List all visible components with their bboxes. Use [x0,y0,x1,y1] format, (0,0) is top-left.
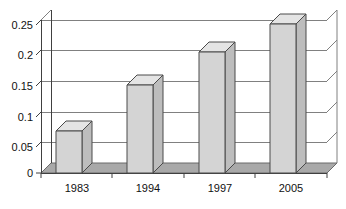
bar-1994 [127,75,163,173]
bar-1997-front [199,52,225,173]
bar-2005-front [270,24,296,173]
chart-canvas: 0.25 0.2 0.15 0.1 0.05 0 1983 1994 1997 … [0,0,346,209]
bar-2005 [270,14,306,173]
y-tick-025 [36,20,41,25]
y-tick-005 [36,142,41,147]
x-tick-marks [41,173,327,178]
x-tick-label-1997: 1997 [208,182,232,194]
y-axis-tick-labels: 0.25 0.2 0.15 0.1 0.05 0 [12,19,33,179]
x-axis-tick-labels: 1983 1994 1997 2005 [65,182,303,194]
y-tick-010 [36,112,41,117]
y-tick-label-010: 0.1 [18,111,33,123]
x-tick-label-1983: 1983 [65,182,89,194]
y-tick-020 [36,50,41,55]
x-tick-label-1994: 1994 [136,182,160,194]
y-tick-label-025: 0.25 [12,19,33,31]
y-tick-label-000: 0 [27,167,33,179]
bar-1983-front [56,131,82,173]
bar-1997 [199,42,235,173]
y-tick-label-015: 0.15 [12,80,33,92]
x-tick-label-2005: 2005 [279,182,303,194]
bar-1983 [56,121,92,173]
bar-2005-side [296,14,306,173]
y-tick-label-005: 0.05 [12,141,33,153]
bar-1997-side [225,42,235,173]
bar-1994-side [153,75,163,173]
y-tick-015 [36,81,41,86]
bar-chart: 0.25 0.2 0.15 0.1 0.05 0 1983 1994 1997 … [0,0,346,209]
y-tick-label-020: 0.2 [18,49,33,61]
y-tick-marks [36,20,41,173]
bar-1994-front [127,85,153,173]
